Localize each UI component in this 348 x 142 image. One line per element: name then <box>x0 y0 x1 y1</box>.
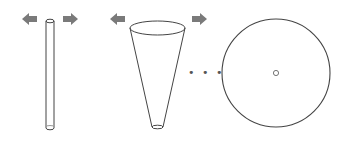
arrow-right-icon <box>63 13 78 25</box>
tube-shape <box>46 19 54 130</box>
arrow-right-icon <box>192 13 207 25</box>
disc-shape <box>222 19 330 127</box>
cone-shape <box>130 21 185 129</box>
arrow-left-icon <box>22 13 37 25</box>
arrow-left-icon <box>110 13 125 25</box>
ellipsis-progression: • • • <box>188 66 224 79</box>
diagram-canvas <box>0 0 348 142</box>
